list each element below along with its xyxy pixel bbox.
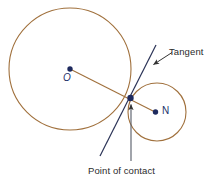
point-of-contact-dot — [127, 95, 133, 101]
center-line-ON — [70, 69, 155, 112]
tangent-label: Tangent — [169, 47, 204, 57]
center-label-O: O — [63, 73, 71, 83]
figure-canvas — [0, 0, 210, 191]
center-label-N: N — [162, 106, 169, 116]
point-of-contact-label: Point of contact — [88, 166, 155, 176]
center-point-O — [67, 66, 72, 71]
center-point-N — [153, 109, 158, 114]
geometry-figure: O N Tangent Point of contact — [0, 0, 210, 191]
